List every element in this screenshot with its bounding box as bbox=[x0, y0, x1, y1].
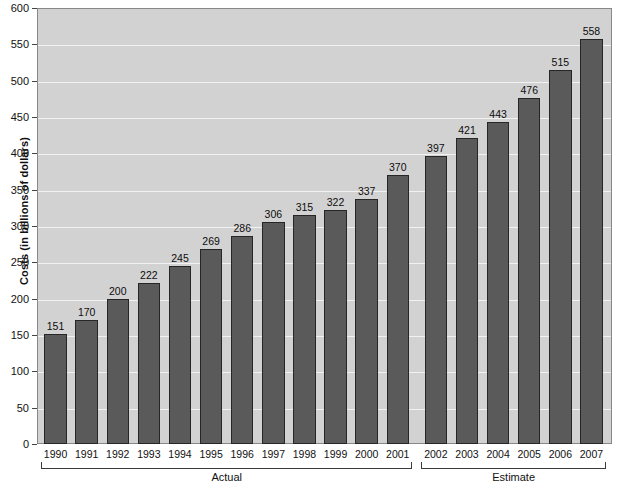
bar-value-label: 170 bbox=[67, 307, 107, 318]
bar bbox=[262, 222, 284, 444]
bars-layer: 1511990170199120019922221993245199426919… bbox=[0, 0, 623, 484]
bar bbox=[169, 266, 191, 444]
bar-value-label: 337 bbox=[347, 186, 387, 197]
bar-value-label: 443 bbox=[478, 109, 518, 120]
bar bbox=[518, 98, 540, 444]
bar-chart: Costs (in billions of dollars) 050100150… bbox=[0, 0, 623, 484]
group-bracket-label: Actual bbox=[41, 471, 412, 483]
bar bbox=[293, 215, 315, 444]
bar-value-label: 421 bbox=[447, 125, 487, 136]
bar-value-label: 322 bbox=[316, 197, 356, 208]
group-bracket bbox=[41, 462, 412, 469]
x-tick-label: 2001 bbox=[378, 449, 418, 460]
bar bbox=[75, 320, 97, 444]
bar bbox=[355, 199, 377, 444]
bar-value-label: 245 bbox=[160, 253, 200, 264]
bar bbox=[425, 156, 447, 444]
bar-value-label: 397 bbox=[416, 143, 456, 154]
bar bbox=[200, 249, 222, 444]
bar-value-label: 286 bbox=[222, 223, 262, 234]
bar-value-label: 476 bbox=[509, 85, 549, 96]
x-tick-label: 2007 bbox=[571, 449, 611, 460]
bar bbox=[107, 299, 129, 444]
bar bbox=[580, 39, 602, 444]
bar-value-label: 370 bbox=[378, 162, 418, 173]
bar-value-label: 269 bbox=[191, 236, 231, 247]
bar-value-label: 200 bbox=[98, 286, 138, 297]
bar bbox=[138, 283, 160, 444]
bar-value-label: 558 bbox=[571, 26, 611, 37]
bar bbox=[456, 138, 478, 444]
bar bbox=[231, 236, 253, 444]
bar-value-label: 151 bbox=[36, 321, 76, 332]
group-bracket-label: Estimate bbox=[421, 471, 606, 483]
bar bbox=[387, 175, 409, 444]
bar bbox=[324, 210, 346, 444]
group-bracket bbox=[421, 462, 606, 469]
bar-value-label: 222 bbox=[129, 270, 169, 281]
bar bbox=[549, 70, 571, 444]
bar bbox=[44, 334, 66, 444]
bar bbox=[487, 122, 509, 444]
bar-value-label: 515 bbox=[540, 57, 580, 68]
